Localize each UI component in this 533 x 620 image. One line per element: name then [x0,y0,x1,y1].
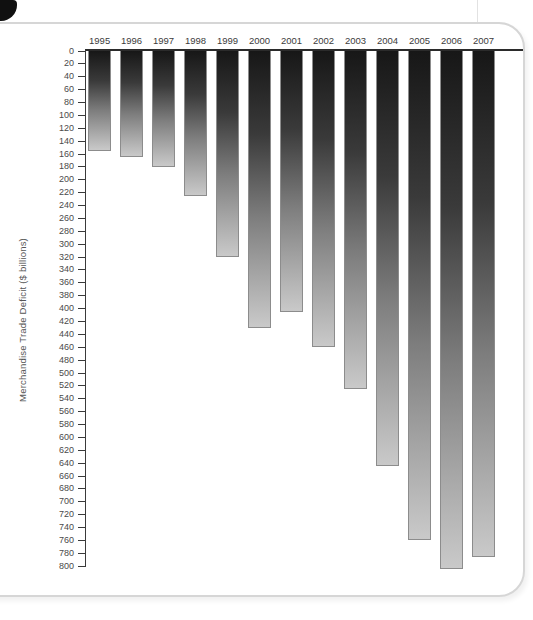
y-tick-300 [78,244,85,245]
y-tick-label-380: 380 [34,290,74,301]
year-label-2002: 2002 [308,35,340,46]
y-tick-label-520: 520 [34,380,74,391]
y-tick-label-420: 420 [34,316,74,327]
y-tick-label-460: 460 [34,342,74,353]
y-tick-label-240: 240 [34,200,74,211]
bar-1996 [120,51,143,157]
y-tick-label-180: 180 [34,161,74,172]
y-tick-label-620: 620 [34,445,74,456]
y-tick-label-500: 500 [34,368,74,379]
y-tick-740 [78,527,85,528]
y-tick-label-120: 120 [34,123,74,134]
y-tick-label-560: 560 [34,406,74,417]
y-tick-20 [78,63,85,64]
y-tick-360 [78,282,85,283]
y-tick-600 [78,437,85,438]
y-tick-620 [78,450,85,451]
y-tick-label-260: 260 [34,213,74,224]
y-tick-label-760: 760 [34,535,74,546]
y-tick-label-40: 40 [34,71,74,82]
y-tick-label-660: 660 [34,471,74,482]
cutoff-black-corner-glyph [0,0,17,21]
y-tick-560 [78,411,85,412]
y-tick-label-220: 220 [34,187,74,198]
page: Merchandise Trade Deficit ($ billions) 0… [0,0,533,620]
y-tick-label-440: 440 [34,329,74,340]
year-label-2000: 2000 [244,35,276,46]
y-tick-140 [78,141,85,142]
y-tick-800 [78,566,85,567]
y-tick-240 [78,205,85,206]
y-tick-220 [78,192,85,193]
bar-2003 [344,51,367,389]
y-tick-580 [78,424,85,425]
y-tick-label-20: 20 [34,58,74,69]
y-tick-520 [78,385,85,386]
y-tick-700 [78,501,85,502]
y-tick-280 [78,231,85,232]
y-tick-label-600: 600 [34,432,74,443]
y-tick-780 [78,553,85,554]
y-tick-label-0: 0 [34,46,74,57]
y-tick-500 [78,373,85,374]
y-tick-label-680: 680 [34,483,74,494]
bar-2002 [312,51,335,347]
y-tick-label-140: 140 [34,136,74,147]
y-tick-label-700: 700 [34,496,74,507]
y-tick-label-640: 640 [34,458,74,469]
bar-1997 [152,51,175,167]
y-tick-label-360: 360 [34,277,74,288]
y-tick-0 [78,51,85,52]
y-tick-label-400: 400 [34,303,74,314]
year-label-1999: 1999 [212,35,244,46]
y-tick-40 [78,76,85,77]
y-tick-760 [78,540,85,541]
year-label-2003: 2003 [340,35,372,46]
y-tick-160 [78,154,85,155]
y-tick-480 [78,360,85,361]
y-tick-label-540: 540 [34,393,74,404]
y-tick-60 [78,89,85,90]
y-tick-260 [78,218,85,219]
y-tick-400 [78,308,85,309]
bar-2005 [408,51,431,540]
y-tick-200 [78,179,85,180]
bar-2004 [376,51,399,466]
y-tick-680 [78,488,85,489]
year-label-1997: 1997 [148,35,180,46]
y-tick-100 [78,115,85,116]
bar-1999 [216,51,239,257]
page-edge-line [477,0,478,23]
y-tick-label-160: 160 [34,149,74,160]
bar-2001 [280,51,303,312]
y-tick-380 [78,295,85,296]
y-tick-label-800: 800 [34,561,74,572]
y-axis-title: Merchandise Trade Deficit ($ billions) [17,238,28,402]
bar-2000 [248,51,271,328]
year-label-2007: 2007 [468,35,500,46]
y-tick-660 [78,476,85,477]
y-tick-label-480: 480 [34,355,74,366]
year-label-2004: 2004 [372,35,404,46]
y-tick-label-80: 80 [34,97,74,108]
y-tick-label-280: 280 [34,226,74,237]
y-tick-640 [78,463,85,464]
year-label-1995: 1995 [84,35,116,46]
y-tick-label-300: 300 [34,239,74,250]
year-label-2001: 2001 [276,35,308,46]
y-tick-label-580: 580 [34,419,74,430]
y-tick-label-740: 740 [34,522,74,533]
y-tick-label-340: 340 [34,264,74,275]
y-tick-80 [78,102,85,103]
year-label-1996: 1996 [116,35,148,46]
bar-2007 [472,51,495,557]
bar-1995 [88,51,111,151]
y-tick-440 [78,334,85,335]
y-tick-label-60: 60 [34,84,74,95]
y-tick-label-320: 320 [34,252,74,263]
y-tick-420 [78,321,85,322]
year-label-2006: 2006 [436,35,468,46]
y-tick-180 [78,166,85,167]
y-tick-460 [78,347,85,348]
y-tick-720 [78,514,85,515]
